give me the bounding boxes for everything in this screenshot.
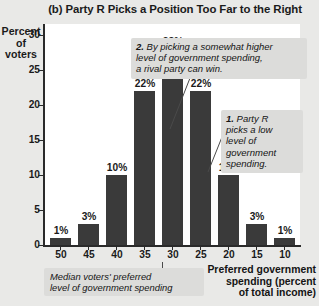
annotation-2-line-3: a rival party can win.	[136, 63, 223, 74]
x-tick-mark-20	[228, 245, 229, 250]
annotation-2-line-1: By picking a somewhat higher	[147, 41, 273, 52]
x-axis-label-line-1: Preferred government	[188, 264, 316, 276]
bar-value-40: 10%	[101, 162, 133, 173]
bar-value-25: 22%	[185, 78, 217, 89]
annotation-1-line-1: Party R	[237, 113, 269, 124]
x-tick-mark-25	[200, 245, 201, 250]
annotation-1-number: 1.	[226, 113, 234, 124]
y-tick-20: 20	[0, 99, 40, 110]
annotation-2-line-2: level of government spending,	[136, 52, 263, 63]
bar-10	[274, 238, 295, 245]
x-tick-10: 10	[269, 249, 301, 260]
x-tick-mark-40	[116, 245, 117, 250]
bar-25	[190, 91, 211, 245]
y-axis-label-line-3: voters	[0, 49, 42, 61]
bar-35	[134, 91, 155, 245]
bar-value-15: 3%	[241, 211, 273, 222]
bar-45	[78, 224, 99, 245]
annotation-1-line-3: level of	[226, 135, 256, 146]
x-tick-mark-50	[60, 245, 61, 250]
x-axis-label-line-2: spending (percent	[188, 276, 316, 288]
bar-20	[218, 175, 239, 245]
median-voter-caption: Median voters' preferred level of govern…	[44, 268, 204, 296]
bar-40	[106, 175, 127, 245]
annotation-1-line-5: spending.	[226, 158, 267, 169]
median-voter-caption-line-1: Median voters' preferred	[50, 271, 200, 282]
x-tick-mark-45	[88, 245, 89, 250]
bar-50	[50, 238, 71, 245]
y-tick-10: 10	[0, 169, 40, 180]
annotation-1-line-2: picks a low	[226, 124, 272, 135]
y-tick-5: 5	[0, 204, 40, 215]
bar-value-50: 1%	[45, 225, 77, 236]
x-axis-label: Preferred government spending (percent o…	[188, 264, 316, 299]
annotation-callout-2: 2. By picking a somewhat higher level of…	[131, 38, 307, 79]
y-tick-mark-0	[38, 245, 44, 246]
x-tick-mark-10	[284, 245, 285, 250]
x-tick-mark-30	[172, 245, 173, 250]
annotation-2-number: 2.	[136, 41, 144, 52]
y-tick-0: 0	[0, 239, 40, 250]
y-tick-15: 15	[0, 134, 40, 145]
bar-value-45: 3%	[73, 211, 105, 222]
y-tick-30: 30	[0, 29, 40, 40]
annotation-callout-1: 1. Party R picks a low level of governme…	[221, 110, 303, 173]
chart-figure: (b) Party R Picks a Position Too Far to …	[0, 0, 319, 306]
median-voter-caption-line-2: level of government spending	[50, 282, 200, 293]
chart-title: (b) Party R Picks a Position Too Far to …	[36, 3, 314, 16]
x-axis-label-line-3: of total income)	[188, 287, 316, 299]
x-tick-mark-35	[144, 245, 145, 250]
bar-15	[246, 224, 267, 245]
bar-value-35: 22%	[129, 78, 161, 89]
y-tick-25: 25	[0, 64, 40, 75]
annotation-1-line-4: government	[226, 147, 276, 158]
x-tick-mark-15	[256, 245, 257, 250]
bar-value-10: 1%	[269, 225, 301, 236]
